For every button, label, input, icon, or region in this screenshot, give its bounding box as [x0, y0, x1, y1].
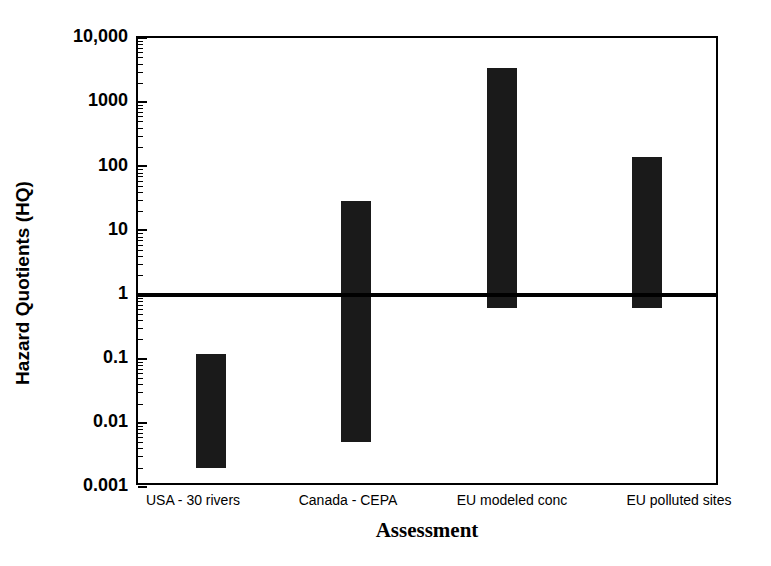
x-tick-label: USA - 30 rivers — [146, 492, 240, 508]
y-tick-minor — [138, 429, 143, 430]
y-tick-minor — [138, 309, 143, 310]
x-tick-label: EU polluted sites — [626, 492, 731, 508]
y-tick-minor — [138, 169, 143, 170]
y-tick-major — [138, 229, 147, 231]
x-tick-label: EU modeled conc — [457, 492, 568, 508]
y-tick-label: 0.1 — [103, 347, 128, 368]
y-tick-minor — [138, 365, 143, 366]
y-tick-label: 1 — [118, 283, 128, 304]
y-tick-minor — [138, 442, 143, 443]
y-tick-minor — [138, 378, 143, 379]
y-tick-minor — [138, 468, 143, 469]
y-tick-minor — [138, 245, 143, 246]
y-tick-minor — [138, 275, 143, 276]
y-tick-minor — [138, 373, 143, 374]
y-tick-minor — [138, 108, 143, 109]
y-tick-major — [138, 165, 147, 167]
y-tick-label: 0.001 — [83, 475, 128, 496]
plot-area — [136, 36, 718, 485]
y-tick-label: 10 — [108, 219, 128, 240]
y-tick-minor — [138, 250, 143, 251]
y-tick-minor — [138, 426, 143, 427]
y-tick-minor — [138, 57, 143, 58]
y-tick-minor — [138, 339, 143, 340]
y-tick-minor — [138, 264, 143, 265]
y-tick-minor — [138, 176, 143, 177]
y-tick-minor — [138, 64, 143, 65]
y-tick-minor — [138, 200, 143, 201]
y-tick-minor — [138, 136, 143, 137]
y-tick-minor — [138, 211, 143, 212]
y-tick-minor — [138, 116, 143, 117]
y-tick-minor — [138, 362, 143, 363]
y-tick-minor — [138, 52, 143, 53]
y-tick-minor — [138, 298, 143, 299]
y-tick-minor — [138, 256, 143, 257]
y-tick-minor — [138, 128, 143, 129]
y-tick-minor — [138, 48, 143, 49]
y-tick-minor — [138, 105, 143, 106]
bar-range-1 — [196, 354, 226, 468]
y-tick-minor — [138, 41, 143, 42]
y-tick-minor — [138, 233, 143, 234]
y-tick-minor — [138, 320, 143, 321]
bar-range-3 — [487, 68, 517, 308]
y-tick-minor — [138, 192, 143, 193]
y-tick-minor — [138, 181, 143, 182]
y-tick-minor — [138, 448, 143, 449]
y-tick-label: 10,000 — [73, 26, 128, 47]
y-tick-minor — [138, 437, 143, 438]
y-tick-minor — [138, 240, 143, 241]
y-tick-minor — [138, 121, 143, 122]
y-tick-minor — [138, 237, 143, 238]
y-tick-minor — [138, 392, 143, 393]
y-tick-minor — [138, 147, 143, 148]
y-axis-tick-labels: 10,000 1000 100 10 1 0.1 0.01 0.001 — [0, 0, 128, 566]
bar-range-4 — [632, 157, 662, 308]
y-tick-minor — [138, 404, 143, 405]
y-tick-minor — [138, 186, 143, 187]
y-tick-label: 100 — [98, 155, 128, 176]
y-tick-minor — [138, 433, 143, 434]
y-tick-minor — [138, 369, 143, 370]
y-tick-major — [138, 101, 147, 103]
hazard-quotient-chart: Hazard Quotients (HQ) 10,000 1000 100 10… — [0, 0, 771, 566]
y-tick-minor — [138, 456, 143, 457]
y-tick-major — [138, 422, 147, 424]
y-tick-major — [138, 358, 147, 360]
x-axis-title: Assessment — [136, 518, 718, 543]
x-tick-label: Canada - CEPA — [299, 492, 398, 508]
y-tick-minor — [138, 72, 143, 73]
y-tick-minor — [138, 384, 143, 385]
y-tick-minor — [138, 301, 143, 302]
y-tick-label: 1000 — [88, 90, 128, 111]
y-tick-minor — [138, 314, 143, 315]
y-tick-major — [138, 486, 147, 488]
y-tick-major — [138, 37, 147, 39]
bar-range-2 — [341, 201, 371, 442]
y-tick-label: 0.01 — [93, 411, 128, 432]
y-tick-minor — [138, 328, 143, 329]
y-tick-minor — [138, 44, 143, 45]
y-tick-minor — [138, 173, 143, 174]
y-tick-minor — [138, 83, 143, 84]
reference-line-hq-1 — [138, 293, 716, 297]
y-tick-minor — [138, 305, 143, 306]
y-tick-minor — [138, 112, 143, 113]
